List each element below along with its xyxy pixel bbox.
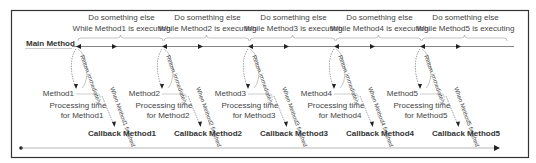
segment-brace: [78, 35, 163, 41]
main-line-arrowhead-icon: [284, 44, 289, 49]
callback-label: Callback Method1: [88, 129, 157, 138]
main-line-arrowhead-icon: [334, 44, 339, 49]
main-line-arrowhead-icon: [420, 44, 425, 49]
while-executing-label: While Method4 is executing: [331, 24, 429, 33]
segment-brace: [164, 35, 249, 41]
call-arrowhead-icon: [74, 84, 78, 89]
diagram-canvas: Main Method Do something elseWhile Metho…: [0, 0, 536, 163]
main-line-arrowhead-icon: [162, 44, 167, 49]
segment-brace: [336, 35, 421, 41]
while-executing-label: While Method2 is executing: [159, 24, 257, 33]
while-executing-label: While Method3 is executing: [245, 24, 343, 33]
main-line-arrowhead-icon: [248, 44, 253, 49]
do-something-label: Do something else: [174, 13, 241, 22]
do-something-label: Do something else: [346, 13, 413, 22]
processing-for-label: for Method2: [147, 111, 190, 120]
do-something-label: Do something else: [260, 13, 327, 22]
call-arrowhead-icon: [160, 84, 164, 89]
processing-for-label: for Method3: [233, 111, 276, 120]
processing-for-label: for Method5: [405, 111, 448, 120]
callback-label: Callback Method5: [432, 129, 501, 138]
return-immediately-label: Return immediately: [423, 54, 446, 105]
processing-time-label: Processing time: [136, 101, 193, 110]
callback-label: Callback Method2: [174, 129, 243, 138]
segment-brace: [250, 35, 335, 41]
callback-label: Callback Method3: [260, 129, 329, 138]
main-line-arrowhead-icon: [456, 44, 461, 49]
processing-time-label: Processing time: [50, 101, 107, 110]
while-executing-label: While Method1 is executing: [73, 24, 171, 33]
call-arrowhead-icon: [418, 84, 422, 89]
return-immediately-label: Return immediately: [251, 54, 274, 105]
return-immediately-label: Return immediately: [337, 54, 360, 105]
call-arrow: [157, 49, 162, 88]
processing-time-label: Processing time: [222, 101, 279, 110]
do-something-label: Do something else: [432, 13, 499, 22]
finished-arrowhead-icon: [284, 122, 288, 128]
method-label: Method2: [129, 89, 161, 98]
processing-time-label: Processing time: [308, 101, 365, 110]
callback-label: Callback Method4: [346, 129, 415, 138]
main-line-arrowhead-icon: [370, 44, 375, 49]
method-label: Method5: [387, 89, 419, 98]
method-label: Method3: [215, 89, 247, 98]
return-immediately-label: Return immediately: [165, 54, 188, 105]
method-label: Method1: [43, 89, 75, 98]
while-executing-label: While Method5 is executing: [417, 24, 515, 33]
call-arrow: [243, 49, 248, 88]
processing-time-label: Processing time: [394, 101, 451, 110]
processing-for-label: for Method4: [319, 111, 362, 120]
finished-arrowhead-icon: [112, 122, 116, 128]
method-label: Method4: [301, 89, 333, 98]
segment-brace: [422, 35, 507, 41]
call-arrowhead-icon: [246, 84, 250, 89]
main-line-arrowhead-icon: [198, 44, 203, 49]
async-callback-diagram: Main Method Do something elseWhile Metho…: [0, 0, 536, 163]
finished-arrowhead-icon: [198, 122, 202, 128]
main-method-label: Main Method: [26, 39, 75, 48]
call-arrow: [329, 49, 334, 88]
return-immediately-label: Return immediately: [79, 54, 102, 105]
call-arrowhead-icon: [332, 84, 336, 89]
call-arrow: [71, 49, 76, 88]
main-line-arrowhead-icon: [76, 44, 81, 49]
do-something-label: Do something else: [88, 13, 155, 22]
main-line-arrowhead-icon: [112, 44, 117, 49]
when-finished-label: When Method5 finished: [453, 86, 480, 147]
call-arrow: [415, 49, 420, 88]
finished-arrowhead-icon: [456, 122, 460, 128]
finished-arrowhead-icon: [370, 122, 374, 128]
processing-for-label: for Method1: [61, 111, 104, 120]
